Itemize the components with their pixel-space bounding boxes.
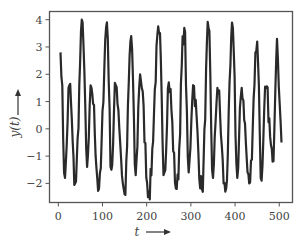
x-tick-label: 100 bbox=[92, 210, 113, 223]
y-tick-label: 3 bbox=[36, 41, 43, 54]
x-arrowhead-icon bbox=[164, 229, 171, 235]
y-tick-label: −1 bbox=[26, 150, 42, 163]
y-tick-label: 0 bbox=[36, 123, 43, 136]
x-axis-ticks: 0100200300400500 bbox=[55, 203, 290, 223]
y-axis-ticks: −2−101234 bbox=[26, 14, 49, 191]
y-axis-label-text: y(t) bbox=[8, 116, 22, 138]
y-tick-label: 4 bbox=[36, 14, 43, 27]
x-tick-label: 0 bbox=[55, 210, 62, 223]
x-tick-label: 400 bbox=[225, 210, 246, 223]
y-arrowhead-icon bbox=[15, 89, 21, 96]
x-tick-label: 300 bbox=[180, 210, 201, 223]
y-tick-label: 2 bbox=[36, 68, 43, 81]
x-axis-label-text: t bbox=[135, 225, 140, 239]
line-chart: 0100200300400500 −2−101234 t y(t) bbox=[0, 0, 303, 243]
series-line-y bbox=[61, 20, 282, 200]
y-tick-label: 1 bbox=[36, 96, 43, 109]
x-tick-label: 500 bbox=[269, 210, 290, 223]
y-tick-label: −2 bbox=[26, 177, 42, 190]
x-axis-label: t bbox=[135, 225, 171, 239]
y-axis-label: y(t) bbox=[8, 89, 22, 138]
x-tick-label: 200 bbox=[136, 210, 157, 223]
